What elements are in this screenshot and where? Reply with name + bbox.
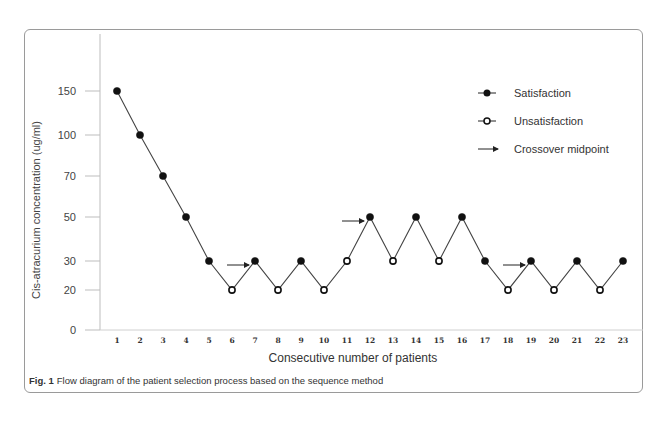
x-tick-label: 9 [298,336,303,345]
unsatisfaction-point [597,287,603,293]
satisfaction-point [205,257,212,264]
satisfaction-point [481,257,488,264]
x-tick-label: 14 [411,336,421,345]
x-tick-label: 7 [252,336,257,345]
x-tick-label: 22 [595,336,605,345]
y-tick-label: 70 [64,170,76,182]
x-tick-label: 19 [526,336,536,345]
figure-caption: Fig. 1Flow diagram of the patient select… [29,375,383,386]
satisfaction-point [297,257,304,264]
x-tick-label: 8 [275,336,280,345]
satisfaction-point [619,257,626,264]
legend-satisfaction-icon [484,90,491,97]
x-tick-label: 15 [434,336,444,345]
x-tick-label: 23 [618,336,628,345]
unsatisfaction-point [390,258,396,264]
unsatisfaction-point [229,287,235,293]
legend-unsatisfaction-label: Unsatisfaction [514,115,583,127]
x-tick-label: 2 [137,336,142,345]
y-tick-label: 100 [58,129,76,141]
y-tick-label: 20 [64,284,76,296]
x-tick-label: 20 [549,336,559,345]
satisfaction-point [527,257,534,264]
satisfaction-point [182,213,189,220]
x-tick-label: 13 [388,336,398,345]
satisfaction-point [573,257,580,264]
satisfaction-point [113,87,120,94]
x-tick-label: 5 [206,336,211,345]
unsatisfaction-point [321,287,327,293]
y-axis-label: Cis-atracurium concentration (ug/ml) [30,121,42,299]
x-tick-label: 6 [229,336,234,345]
unsatisfaction-point [551,287,557,293]
y-tick-label: 30 [64,255,76,267]
legend-satisfaction-label: Satisfaction [514,87,571,99]
x-tick-label: 3 [160,336,165,345]
x-tick-label: 17 [480,336,490,345]
x-tick-label: 16 [457,336,467,345]
x-tick-label: 4 [183,336,188,345]
caption-text: Flow diagram of the patient selection pr… [57,375,383,386]
x-tick-label: 12 [365,336,375,345]
y-tick-label: 50 [64,211,76,223]
x-tick-label: 11 [342,336,352,345]
satisfaction-point [251,257,258,264]
legend-unsatisfaction-icon [484,118,490,124]
satisfaction-point [136,131,143,138]
satisfaction-point [412,213,419,220]
x-tick-label: 10 [319,336,329,345]
unsatisfaction-point [275,287,281,293]
unsatisfaction-point [505,287,511,293]
x-tick-label: 21 [572,336,582,345]
y-tick-label: 150 [58,85,76,97]
satisfaction-point [458,213,465,220]
chart: 020305070100150Cis-atracurium concentrat… [0,0,671,423]
y-tick-label: 0 [70,324,76,336]
unsatisfaction-point [344,258,350,264]
x-tick-label: 18 [503,336,513,345]
x-tick-label: 1 [114,336,119,345]
satisfaction-point [366,213,373,220]
satisfaction-point [159,172,166,179]
x-axis-label: Consecutive number of patients [269,351,438,365]
legend-crossover-label: Crossover midpoint [514,143,609,155]
caption-label: Fig. 1 [29,375,54,386]
unsatisfaction-point [436,258,442,264]
